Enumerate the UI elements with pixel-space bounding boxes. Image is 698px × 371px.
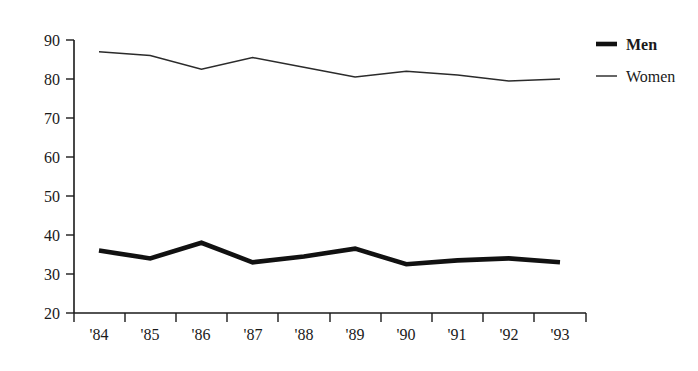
x-tick-label: '85 [141,326,160,343]
y-tick-label: 30 [44,266,60,283]
y-tick-label: 60 [44,149,60,166]
x-tick-label: '84 [90,326,109,343]
x-tick-label: '90 [397,326,416,343]
y-tick-label: 40 [44,227,60,244]
x-tick-label: '91 [448,326,467,343]
x-tick-label: '88 [295,326,314,343]
y-tick-labels: 90 80 70 60 50 40 30 20 [44,32,60,322]
legend-label-men: Men [626,36,657,53]
x-tick-marks [74,313,586,322]
y-tick-label: 50 [44,188,60,205]
x-tick-label: '93 [551,326,570,343]
chart-canvas: 90 80 70 60 50 40 30 20 '84 '85 [0,0,698,371]
x-tick-label: '92 [500,326,519,343]
x-tick-label: '87 [244,326,263,343]
y-tick-label: 70 [44,110,60,127]
series-line-women [99,52,560,81]
y-tick-label: 80 [44,71,60,88]
y-tick-label: 20 [44,305,60,322]
x-tick-label: '89 [346,326,365,343]
series-line-men [99,243,560,264]
legend: Men Women [596,36,675,85]
y-tick-label: 90 [44,32,60,49]
x-tick-label: '86 [192,326,211,343]
legend-label-women: Women [626,68,675,85]
x-tick-labels: '84 '85 '86 '87 '88 '89 '90 '91 '92 '93 [90,326,570,343]
line-chart: 90 80 70 60 50 40 30 20 '84 '85 [0,0,698,371]
y-tick-marks [66,40,74,313]
